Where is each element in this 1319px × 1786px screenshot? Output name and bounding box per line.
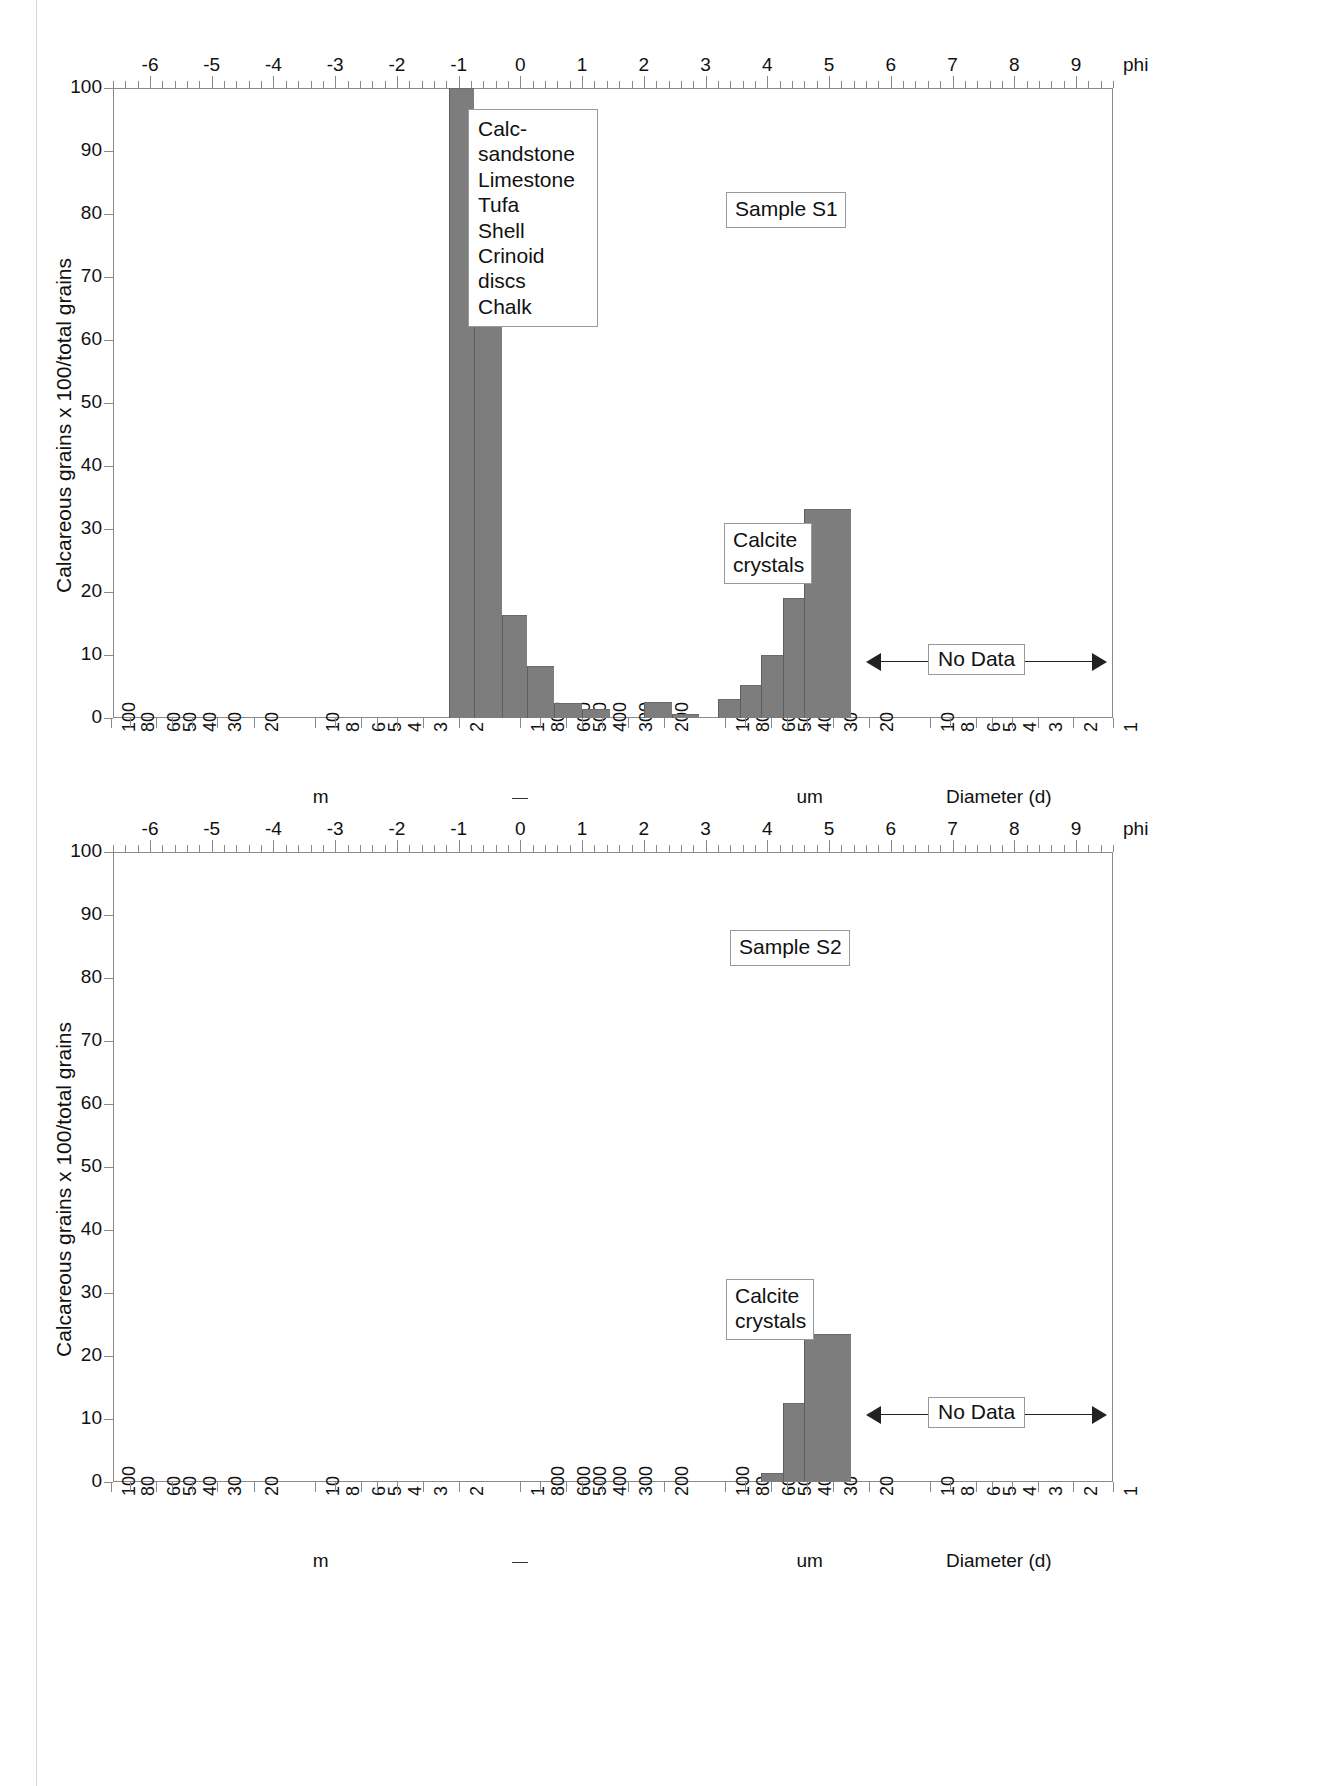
phi-tick-label-2--6: -6 <box>135 818 165 840</box>
phi-minor-tick-1 <box>1064 81 1065 88</box>
phi-minor-tick-1 <box>903 81 904 88</box>
diameter-tick-label-2-21: 100 <box>733 1466 754 1496</box>
diameter-tick-mark-2-7 <box>315 1482 316 1492</box>
phi-minor-tick-2 <box>619 845 620 852</box>
diameter-tick-mark-2-17 <box>582 1482 583 1492</box>
diameter-tick-label-2-17: 500 <box>590 1466 611 1496</box>
phi-minor-tick-2 <box>409 845 410 852</box>
diameter-axis-name-2: Diameter (d) <box>946 1550 1052 1572</box>
diameter-tick-mark-2-12 <box>423 1482 424 1492</box>
calcite-label-line1-1: Calcite <box>733 528 804 553</box>
diameter-tick-mark-1-35 <box>1113 718 1114 728</box>
phi-tick-mark-1-7 <box>953 76 954 88</box>
diameter-tick-label-1-33: 3 <box>1046 722 1067 732</box>
diameter-tick-mark-2-0 <box>111 1482 112 1492</box>
phi-minor-tick-2 <box>669 845 670 852</box>
y-tick-label-2-60: 60 <box>62 1092 102 1114</box>
phi-tick-mark-1-9 <box>1076 76 1077 88</box>
diameter-tick-mark-2-22 <box>745 1482 746 1492</box>
phi-minor-tick-1 <box>570 81 571 88</box>
phi-minor-tick-2 <box>965 845 966 852</box>
phi-minor-tick-1 <box>175 81 176 88</box>
phi-minor-tick-2 <box>298 845 299 852</box>
y-tick-mark-2-30 <box>104 1293 113 1294</box>
diameter-tick-mark-1-26 <box>833 718 834 728</box>
figure-page: Calcareous grains x 100/total grains0102… <box>0 0 1319 1786</box>
y-tick-label-2-30: 30 <box>62 1281 102 1303</box>
phi-tick-label-1-2: 2 <box>629 54 659 76</box>
diameter-tick-mark-1-14 <box>520 718 521 728</box>
phi-minor-tick-1 <box>743 81 744 88</box>
phi-minor-tick-1 <box>545 81 546 88</box>
phi-minor-tick-1 <box>915 81 916 88</box>
phi-minor-tick-1 <box>187 81 188 88</box>
diameter-tick-mark-1-7 <box>315 718 316 728</box>
y-tick-label-2-50: 50 <box>62 1155 102 1177</box>
phi-minor-tick-2 <box>977 845 978 852</box>
y-tick-label-1-60: 60 <box>62 328 102 350</box>
phi-minor-tick-1 <box>199 81 200 88</box>
diameter-tick-mark-2-23 <box>771 1482 772 1492</box>
phi-tick-label-1-0: 0 <box>505 54 535 76</box>
diameter-tick-mark-2-10 <box>377 1482 378 1492</box>
diameter-tick-mark-1-20 <box>664 718 665 728</box>
phi-minor-tick-2 <box>940 845 941 852</box>
diameter-tick-mark-1-0 <box>111 718 112 728</box>
y-tick-label-1-90: 90 <box>62 139 102 161</box>
diameter-tick-mark-2-31 <box>992 1482 993 1492</box>
phi-minor-tick-1 <box>1051 81 1052 88</box>
bar-2-2 <box>804 1334 850 1482</box>
phi-minor-tick-2 <box>496 845 497 852</box>
diameter-tick-mark-1-28 <box>930 718 931 728</box>
phi-tick-label-1--1: -1 <box>444 54 474 76</box>
diameter-tick-mark-2-33 <box>1038 1482 1039 1492</box>
diameter-tick-mark-1-2 <box>156 718 157 728</box>
sample-title-1: Sample S1 <box>726 192 846 228</box>
legend-item-5: Chalk <box>478 294 589 319</box>
phi-minor-tick-1 <box>446 81 447 88</box>
phi-minor-tick-1 <box>730 81 731 88</box>
diameter-tick-mark-2-1 <box>130 1482 131 1492</box>
y-tick-mark-2-90 <box>104 915 113 916</box>
diameter-axis-name-1: Diameter (d) <box>946 786 1052 808</box>
phi-minor-tick-2 <box>125 845 126 852</box>
bar-1-4 <box>554 703 582 718</box>
diameter-tick-mark-2-6 <box>254 1482 255 1492</box>
bar-1-1 <box>474 301 502 718</box>
phi-minor-tick-1 <box>508 81 509 88</box>
no-data-arrow-left-2 <box>866 1406 881 1424</box>
phi-tick-label-1--6: -6 <box>135 54 165 76</box>
phi-minor-tick-2 <box>422 845 423 852</box>
phi-minor-tick-2 <box>990 845 991 852</box>
phi-minor-tick-1 <box>940 81 941 88</box>
phi-tick-mark-2-8 <box>1014 840 1015 852</box>
diameter-tick-mark-2-21 <box>725 1482 726 1492</box>
phi-tick-mark-1-3 <box>706 76 707 88</box>
mm-divider-mark-1 <box>512 798 528 799</box>
y-tick-mark-1-40 <box>104 466 113 467</box>
phi-tick-label-1--4: -4 <box>258 54 288 76</box>
phi-minor-tick-1 <box>718 81 719 88</box>
phi-minor-tick-2 <box>224 845 225 852</box>
phi-tick-mark-2-2 <box>644 840 645 852</box>
y-tick-mark-2-80 <box>104 978 113 979</box>
bar-2-1 <box>783 1403 805 1482</box>
phi-minor-tick-2 <box>508 845 509 852</box>
phi-tick-mark-1--2 <box>397 76 398 88</box>
phi-tick-mark-2-4 <box>767 840 768 852</box>
legend-item-2: Tufa <box>478 192 589 217</box>
diameter-tick-mark-1-25 <box>807 718 808 728</box>
phi-minor-tick-1 <box>619 81 620 88</box>
diameter-tick-mark-1-33 <box>1038 718 1039 728</box>
plot-area-2 <box>113 852 1113 1482</box>
diameter-tick-mark-2-14 <box>520 1482 521 1492</box>
diameter-tick-mark-2-25 <box>807 1482 808 1492</box>
phi-tick-label-2--2: -2 <box>382 818 412 840</box>
diameter-tick-mark-1-18 <box>602 718 603 728</box>
phi-minor-tick-1 <box>817 81 818 88</box>
y-tick-label-1-50: 50 <box>62 391 102 413</box>
phi-tick-mark-1-2 <box>644 76 645 88</box>
y-axis-label-1: Calcareous grains x 100/total grains <box>52 258 76 593</box>
phi-minor-tick-2 <box>471 845 472 852</box>
diameter-tick-mark-1-31 <box>992 718 993 728</box>
